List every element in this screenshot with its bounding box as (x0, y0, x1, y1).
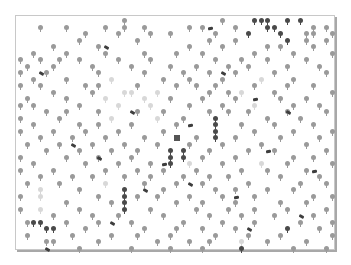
tree-icon (252, 18, 257, 25)
tree-icon (135, 148, 140, 155)
tree-icon (291, 51, 296, 58)
tree-icon (265, 57, 270, 64)
tree-icon (38, 135, 43, 142)
tree-icon (148, 57, 153, 64)
tree-icon (31, 51, 36, 58)
tree-icon (90, 90, 95, 97)
log-icon (162, 163, 167, 167)
tree-icon (304, 96, 309, 103)
tree-icon (272, 122, 277, 129)
tree-icon (239, 122, 244, 129)
tree-icon (220, 18, 225, 25)
tree-icon (285, 83, 290, 90)
tree-icon (220, 44, 225, 51)
tree-icon (304, 142, 309, 149)
tree-icon (155, 116, 160, 123)
tree-icon (213, 57, 218, 64)
tree-icon (194, 83, 199, 90)
tree-icon (77, 187, 82, 194)
tree-icon (142, 135, 147, 142)
tree-icon (207, 70, 212, 77)
tree-icon (285, 207, 290, 214)
tree-icon (285, 18, 290, 25)
tree-icon (239, 57, 244, 64)
tree-icon (259, 142, 264, 149)
tree-icon (64, 220, 69, 227)
tree-icon (330, 233, 335, 240)
tree-icon (317, 226, 322, 233)
tree-icon (77, 122, 82, 129)
tree-icon (265, 44, 270, 51)
tree-icon (103, 168, 108, 175)
tree-icon (96, 70, 101, 77)
tree-icon (38, 83, 43, 90)
tree-icon (207, 148, 212, 155)
tree-icon (220, 103, 225, 110)
tree-icon (51, 90, 56, 97)
tree-icon (317, 64, 322, 71)
tree-icon (122, 90, 127, 97)
tree-icon (18, 57, 23, 64)
tree-icon (116, 161, 121, 168)
tree-icon (174, 83, 179, 90)
tree-icon (148, 174, 153, 181)
tree-icon (64, 77, 69, 84)
tree-icon (116, 213, 121, 220)
tree-icon (142, 25, 147, 32)
tree-icon (324, 148, 329, 155)
tree-icon (18, 83, 23, 90)
tree-icon (96, 44, 101, 51)
player-block[interactable] (174, 135, 180, 141)
tree-icon (298, 220, 303, 227)
tree-icon (246, 109, 251, 116)
tree-icon (272, 90, 277, 97)
tree-icon (252, 207, 257, 214)
tree-icon (207, 109, 212, 116)
log-icon (246, 227, 252, 232)
tree-icon (109, 200, 114, 207)
tree-icon (233, 70, 238, 77)
tree-icon (142, 96, 147, 103)
tree-icon (96, 220, 101, 227)
tree-icon (77, 246, 82, 253)
tree-icon (233, 135, 238, 142)
tree-icon (25, 142, 30, 149)
tree-icon (96, 109, 101, 116)
tree-icon (298, 116, 303, 123)
game-board[interactable] (15, 15, 335, 250)
tree-icon (57, 116, 62, 123)
log-icon (266, 150, 271, 154)
tree-icon (96, 122, 101, 129)
tree-icon (161, 77, 166, 84)
tree-icon (161, 213, 166, 220)
tree-icon (44, 239, 49, 246)
tree-icon (51, 64, 56, 71)
tree-icon (285, 64, 290, 71)
tree-icon (291, 103, 296, 110)
tree-icon (246, 181, 251, 188)
tree-icon (18, 70, 23, 77)
tree-icon (311, 31, 316, 38)
tree-icon (324, 109, 329, 116)
tree-icon (239, 168, 244, 175)
tree-icon (226, 64, 231, 71)
tree-icon (57, 57, 62, 64)
tree-icon (213, 135, 218, 142)
tree-icon (278, 233, 283, 240)
log-icon (142, 188, 148, 193)
tree-icon (233, 155, 238, 162)
tree-icon (298, 181, 303, 188)
tree-icon (31, 122, 36, 129)
tree-icon (187, 103, 192, 110)
tree-icon (51, 213, 56, 220)
tree-icon (135, 109, 140, 116)
tree-icon (233, 25, 238, 32)
log-icon (207, 26, 212, 30)
tree-icon (324, 246, 329, 253)
tree-icon (311, 122, 316, 129)
tree-icon (213, 31, 218, 38)
tree-icon (155, 142, 160, 149)
tree-icon (174, 226, 179, 233)
tree-icon (324, 70, 329, 77)
tree-icon (31, 103, 36, 110)
